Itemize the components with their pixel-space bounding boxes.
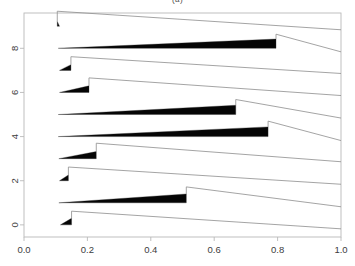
y-tick-label: 8 bbox=[10, 46, 21, 51]
tail-row-3 bbox=[96, 143, 341, 162]
chart-canvas: 0.00.20.40.60.81.002468 bbox=[0, 0, 355, 266]
tail-row-6 bbox=[89, 78, 341, 96]
wedge-row-9 bbox=[57, 21, 59, 26]
tail-row-2 bbox=[68, 167, 341, 184]
tail-row-4 bbox=[268, 121, 341, 140]
x-tick-label: 0.6 bbox=[208, 244, 221, 255]
wedge-row-3 bbox=[59, 152, 96, 159]
tail-row-0 bbox=[72, 211, 341, 229]
tail-row-5 bbox=[236, 100, 341, 119]
x-tick-label: 1.0 bbox=[334, 244, 347, 255]
figure-title: (a) bbox=[0, 0, 355, 4]
wedge-row-8 bbox=[58, 39, 276, 48]
wedge-row-2 bbox=[60, 175, 69, 181]
wedge-row-6 bbox=[60, 86, 89, 93]
wedge-row-7 bbox=[60, 65, 71, 71]
wedge-row-5 bbox=[58, 105, 236, 114]
tail-row-1 bbox=[186, 187, 341, 207]
tail-row-7 bbox=[71, 57, 341, 74]
y-tick-label: 2 bbox=[10, 178, 21, 183]
y-tick-label: 0 bbox=[10, 222, 21, 227]
tail-row-9 bbox=[57, 11, 341, 30]
x-tick-label: 0.4 bbox=[144, 244, 157, 255]
y-tick-label: 6 bbox=[10, 90, 21, 95]
x-tick-label: 0.2 bbox=[81, 244, 94, 255]
wedge-row-1 bbox=[59, 194, 186, 203]
tail-row-8 bbox=[276, 34, 341, 52]
y-tick-label: 4 bbox=[10, 134, 21, 139]
x-tick-label: 0.8 bbox=[271, 244, 284, 255]
x-tick-label: 0.0 bbox=[17, 244, 30, 255]
figure-container: (a) 0.00.20.40.60.81.002468 bbox=[0, 0, 355, 266]
wedge-row-4 bbox=[58, 127, 268, 137]
wedge-row-0 bbox=[60, 218, 71, 225]
